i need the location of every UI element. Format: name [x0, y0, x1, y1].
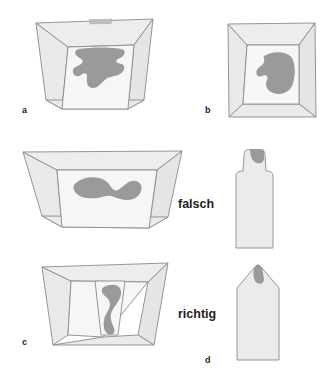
panel-a-top-notch	[89, 19, 112, 24]
verdict-falsch-label: falsch	[178, 197, 214, 211]
figure-container: a b falsch	[0, 0, 323, 386]
panel-a-group: a	[22, 19, 153, 115]
panel-c-group: c	[22, 263, 168, 347]
middle-right-group: falsch	[178, 150, 273, 249]
panel-b-group: b	[205, 23, 316, 117]
panel-b-letter: b	[205, 105, 211, 115]
verdict-richtig-label: richtig	[178, 307, 216, 321]
middle-left-group	[23, 151, 182, 228]
middle-left-inner-floor	[57, 170, 157, 228]
panel-a-letter: a	[22, 105, 28, 115]
middle-right-bottle-profile	[236, 150, 273, 249]
tissue-block-orientation-figure: a b falsch	[0, 0, 323, 386]
panel-c-letter: c	[22, 337, 27, 347]
panel-d-letter: d	[205, 355, 211, 365]
panel-d-group: richtig d	[178, 265, 279, 365]
